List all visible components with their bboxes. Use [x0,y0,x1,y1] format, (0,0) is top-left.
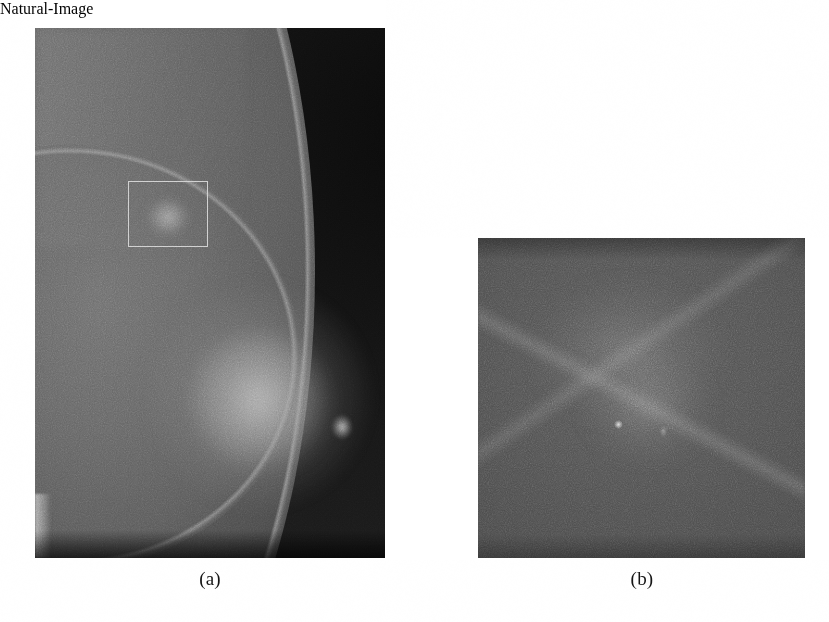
region-of-interest-box [128,181,208,247]
panel-b-top-shading [478,238,805,260]
panel-a-collimation-edge [35,530,385,558]
mammogram-panel-a [35,28,385,558]
panel-b-bright-microcalcification [614,420,623,429]
panel-a-caption: (a) [140,568,280,590]
panel-a-skin-line-lower [35,28,385,558]
panel-b-tissue-strands [478,238,805,558]
mammogram-panel-b [478,238,805,558]
panel-b-bottom-shading [478,534,805,558]
panel-a-nipple [331,414,353,440]
figure-container: (a) (b) [0,0,829,622]
panel-b-secondary-bright-spot [660,426,667,437]
panel-b-caption: (b) [572,568,712,590]
